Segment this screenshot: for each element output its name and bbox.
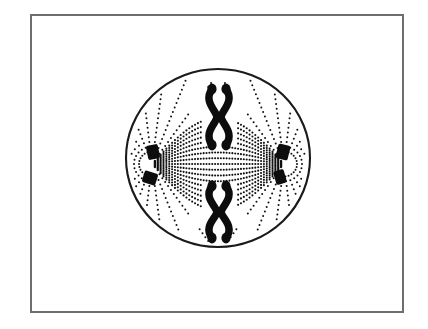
figure-border xyxy=(30,14,404,313)
figure-page xyxy=(0,0,428,329)
